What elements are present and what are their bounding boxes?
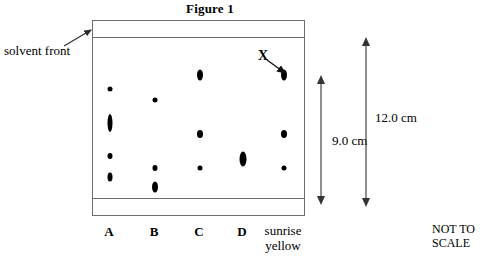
- chromatogram-spot: [281, 130, 287, 138]
- chromatogram-spot: [198, 166, 203, 171]
- not-to-scale-line1: NOT TO: [432, 222, 475, 236]
- dimension-arrow-9cm: [312, 74, 330, 206]
- page-title: Figure 1: [0, 1, 420, 17]
- chromatogram-spot: [197, 130, 203, 138]
- chromatogram-spot: [153, 165, 158, 171]
- chromatogram-spot: [153, 98, 158, 103]
- chromatogram-spot: [282, 166, 287, 171]
- lane-label-C: C: [194, 224, 203, 240]
- chromatogram-spot: [240, 152, 247, 167]
- figure-canvas: Figure 1 solvent front X: [0, 0, 483, 260]
- dimension-label-12cm: 12.0 cm: [375, 110, 417, 126]
- lane-label-text: sunrise: [265, 224, 302, 239]
- spot-x-pointer-arrow: [265, 57, 291, 79]
- not-to-scale-line2: SCALE: [432, 236, 475, 250]
- lane-label-A: A: [104, 224, 113, 240]
- lane-label-D: D: [237, 224, 246, 240]
- solvent-front-label: solvent front: [4, 43, 70, 59]
- chromatogram-spot: [108, 114, 113, 132]
- chromatogram-spot: [108, 173, 113, 182]
- dimension-arrow-12cm: [357, 36, 375, 208]
- chromatography-plate: [92, 20, 305, 216]
- chromatogram-spot: [152, 182, 158, 193]
- chromatogram-spot: [108, 87, 113, 92]
- chromatogram-spot: [197, 70, 203, 81]
- chromatogram-spot: [108, 153, 113, 159]
- lane-label-sunrise-yellow: sunriseyellow: [265, 224, 302, 253]
- lane-label-text: A: [104, 224, 113, 240]
- baseline-line: [93, 198, 304, 199]
- solvent-front-line: [93, 37, 304, 38]
- lane-label-text: B: [150, 224, 159, 240]
- not-to-scale-note: NOT TO SCALE: [432, 222, 475, 251]
- lane-label-B: B: [150, 224, 159, 240]
- solvent-front-leader-arrow: [62, 26, 96, 48]
- lane-label-text-line2: yellow: [265, 239, 302, 254]
- lane-label-text: D: [237, 224, 246, 240]
- lane-label-text: C: [194, 224, 203, 240]
